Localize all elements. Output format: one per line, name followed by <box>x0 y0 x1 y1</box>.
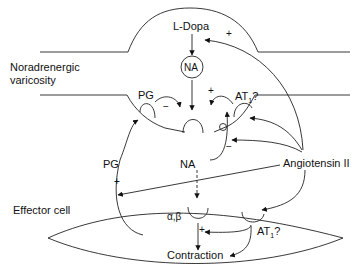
alpha-beta-receptor <box>188 207 208 218</box>
pg-prejunctional-receptor <box>140 104 155 118</box>
sign-ang-uptake: − <box>226 141 232 152</box>
sign-ang-pg: + <box>114 176 120 187</box>
at1-facilitate-arrow <box>211 96 233 105</box>
l-dopa-label: L-Dopa <box>173 20 210 32</box>
sign-at1-facilitate: + <box>208 85 214 96</box>
alpha-beta-label: α,β <box>167 211 182 222</box>
at1-to-alpha-arrow <box>205 225 251 232</box>
pg-prejunctional-label: PG <box>138 89 154 101</box>
sign-at1-contraction: + <box>199 224 205 235</box>
at1-prejunctional-label: AT1? <box>235 90 258 104</box>
na-reuptake-arrow <box>210 112 227 160</box>
ang-to-at1-pre-arrow <box>250 118 302 150</box>
na-vesicle-label: NA <box>184 62 198 73</box>
ang-to-pg-arrow <box>118 165 280 195</box>
noradrenergic-diagram: L-Dopa NA Noradrenergic varicosity PG AT… <box>0 0 354 275</box>
effector-cell-label: Effector cell <box>13 204 70 216</box>
na-released-label: NA <box>180 158 196 170</box>
pg-effector-label: PG <box>103 158 119 170</box>
noradrenergic-label-2: varicosity <box>10 74 56 86</box>
angiotensin-label: Angiotensin II <box>283 157 350 169</box>
ang-to-uptake-arrow <box>232 140 302 152</box>
sign-ang-synthesis: + <box>226 28 232 39</box>
ang-to-at1-post-arrow <box>262 170 305 210</box>
contraction-label: Contraction <box>167 249 223 261</box>
at1-postjunctional-label: AT1? <box>257 225 280 239</box>
noradrenergic-label-1: Noradrenergic <box>10 61 80 73</box>
release-site <box>183 120 203 134</box>
sign-pg-inhibit: − <box>163 101 169 112</box>
